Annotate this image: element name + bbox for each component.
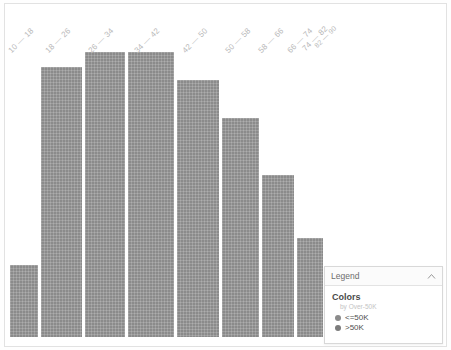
legend-section-title: Colors bbox=[332, 292, 435, 302]
tick-label-2: 26 — 34 bbox=[87, 26, 116, 55]
bar-3[interactable] bbox=[128, 52, 174, 337]
circle-swatch-icon bbox=[335, 315, 341, 321]
histogram-chart-root: 10 — 18 18 — 26 26 — 34 34 — 42 42 — 50 … bbox=[0, 0, 451, 350]
legend-item-label: >50K bbox=[345, 323, 364, 332]
tick-label-0: 10 — 18 bbox=[7, 26, 36, 55]
bar-6[interactable] bbox=[262, 175, 294, 337]
tick-label-4: 42 — 50 bbox=[181, 26, 210, 55]
bar-2[interactable] bbox=[85, 52, 125, 337]
chevron-up-icon[interactable] bbox=[427, 273, 436, 280]
legend-item-label: <=50K bbox=[345, 313, 369, 322]
bar-4[interactable] bbox=[177, 80, 219, 337]
legend-title: Legend bbox=[331, 271, 359, 281]
bar-1[interactable] bbox=[41, 67, 82, 337]
legend-header[interactable]: Legend bbox=[325, 267, 442, 286]
bar-7[interactable] bbox=[297, 238, 323, 337]
tick-label-5: 50 — 58 bbox=[224, 26, 253, 55]
tick-label-3: 34 — 42 bbox=[133, 26, 162, 55]
legend-section-subtitle: by Over-50K bbox=[340, 303, 435, 310]
bar-0[interactable] bbox=[10, 265, 38, 337]
circle-swatch-icon bbox=[335, 325, 341, 331]
bar-5[interactable] bbox=[222, 118, 259, 337]
legend-panel[interactable]: Legend Colors by Over-50K <=50K >50K bbox=[324, 266, 443, 344]
tick-label-6: 58 — 66 bbox=[257, 26, 286, 55]
legend-body: Colors by Over-50K <=50K >50K bbox=[325, 286, 442, 337]
legend-item-le-50k[interactable]: <=50K bbox=[335, 313, 435, 322]
tick-label-1: 18 — 26 bbox=[44, 26, 73, 55]
legend-item-gt-50k[interactable]: >50K bbox=[335, 323, 435, 332]
